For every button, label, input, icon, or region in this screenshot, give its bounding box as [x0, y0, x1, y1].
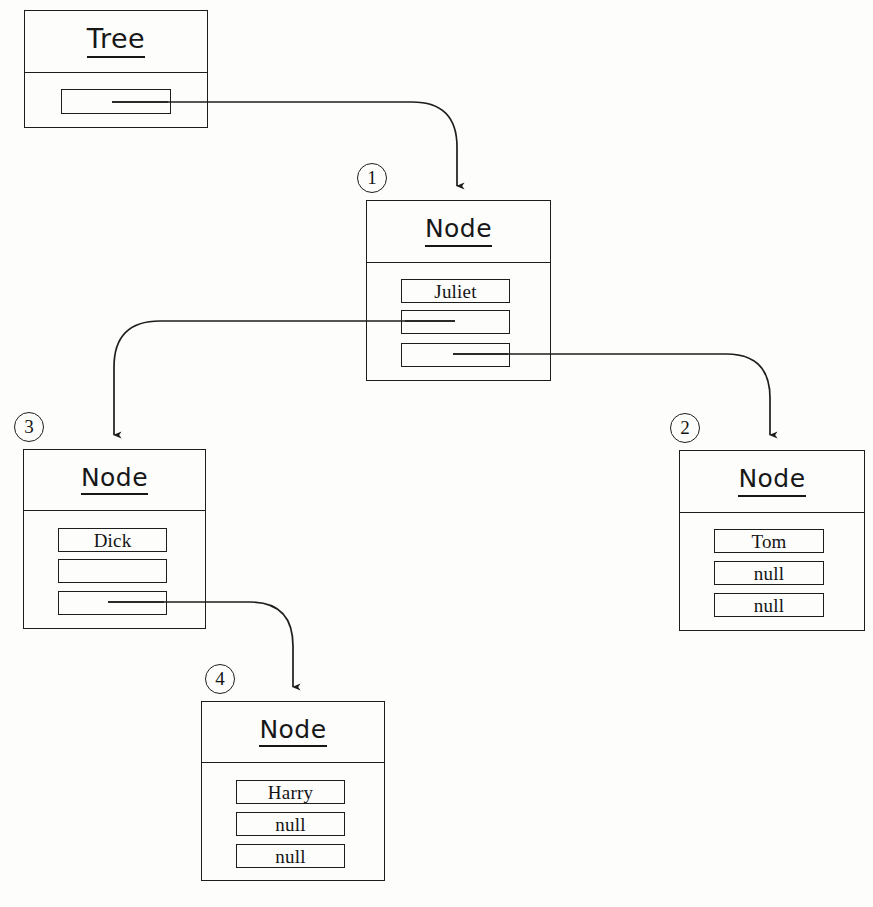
- node-3-field-left: [58, 559, 167, 583]
- node-4-header: Node: [202, 702, 384, 763]
- node-4-field-right-value: null: [275, 847, 305, 866]
- node-3-header: Node: [24, 450, 205, 511]
- node-3-field-right: [58, 591, 167, 615]
- node-3-title: Node: [81, 465, 148, 495]
- diagram-canvas: Tree 1 Node Juliet 2 Node Tom null: [0, 0, 873, 907]
- node-4-field-left-value: null: [275, 815, 305, 834]
- ref-number-2: 2: [670, 413, 700, 443]
- node-4-title: Node: [259, 717, 326, 747]
- ref-number-3: 3: [14, 412, 44, 442]
- node-1-box: Node Juliet: [366, 200, 551, 381]
- node-2-field-right-value: null: [754, 596, 784, 615]
- node-4-box: Node Harry null null: [201, 701, 385, 881]
- node-2-box: Node Tom null null: [679, 450, 865, 631]
- tree-field-root: [61, 89, 171, 114]
- node-4-field-left: null: [236, 812, 345, 836]
- node-2-field-left-value: null: [754, 564, 784, 583]
- ref-number-1: 1: [357, 163, 387, 193]
- node-2-field-right: null: [714, 593, 824, 617]
- node-1-header: Node: [367, 201, 550, 263]
- node-2-field-data: Tom: [714, 529, 824, 553]
- node-4-field-data-value: Harry: [268, 783, 313, 802]
- node-1-field-data: Juliet: [401, 279, 510, 303]
- node-1-field-data-value: Juliet: [434, 282, 476, 301]
- node-3-field-data-value: Dick: [94, 531, 132, 550]
- node-4-field-data: Harry: [236, 780, 345, 804]
- ref-number-4: 4: [205, 664, 235, 694]
- node-1-field-left: [401, 310, 510, 334]
- node-2-header: Node: [680, 451, 864, 513]
- node-3-box: Node Dick: [23, 449, 206, 629]
- node-2-field-data-value: Tom: [751, 532, 786, 551]
- node-4-field-right: null: [236, 844, 345, 868]
- node-2-field-left: null: [714, 561, 824, 585]
- node-1-title: Node: [425, 216, 492, 246]
- tree-object-box: Tree: [24, 10, 208, 128]
- node-1-field-right: [401, 343, 510, 367]
- tree-object-title: Tree: [87, 25, 145, 57]
- node-2-title: Node: [738, 466, 805, 496]
- tree-object-header: Tree: [25, 11, 207, 73]
- node-3-field-data: Dick: [58, 528, 167, 552]
